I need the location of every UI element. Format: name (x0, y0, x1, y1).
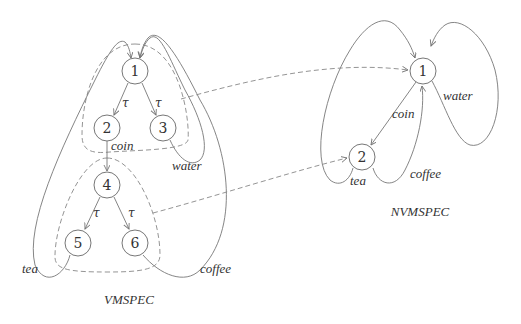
edge-6-1-coffee (140, 35, 226, 277)
n-label-coin: coin (392, 106, 414, 121)
edge-4-6 (114, 197, 129, 229)
edge-1-3 (142, 83, 156, 115)
nvmspec-title: NVMSPEC (390, 204, 450, 219)
svg-text:2: 2 (103, 120, 112, 136)
label-water: water (172, 158, 203, 173)
n-label-water: water (443, 88, 474, 103)
vmspec-node-5: 5 (65, 230, 91, 256)
svg-text:1: 1 (419, 63, 428, 79)
nvmspec-node-1: 1 (410, 58, 436, 84)
label-tau-4-5: τ (93, 206, 100, 220)
svg-text:4: 4 (103, 177, 112, 193)
svg-text:1: 1 (131, 63, 140, 79)
label-coffee: coffee (200, 261, 231, 276)
mapping-upper-to-1 (181, 67, 408, 99)
n-edge-1-1-water (431, 22, 498, 145)
n-label-coffee: coffee (410, 166, 441, 181)
svg-text:5: 5 (74, 235, 83, 251)
vmspec-node-6: 6 (122, 230, 148, 256)
vmspec-node-3: 3 (150, 115, 176, 141)
label-tea: tea (22, 261, 38, 276)
svg-text:6: 6 (131, 235, 140, 251)
vmspec-diagram: 1 2 3 4 5 6 τ τ coin water τ τ tea coffe… (22, 35, 231, 307)
n-label-tea: tea (350, 173, 366, 188)
nvmspec-node-2: 2 (349, 144, 375, 170)
label-tau-4-6: τ (128, 206, 135, 220)
label-tau-1-3: τ (155, 96, 162, 110)
svg-text:3: 3 (159, 120, 168, 136)
label-coin: coin (111, 138, 133, 153)
svg-text:2: 2 (358, 149, 367, 165)
state-diagram: 1 2 3 4 5 6 τ τ coin water τ τ tea coffe… (0, 0, 521, 324)
vmspec-node-4: 4 (94, 172, 120, 198)
nvmspec-diagram: 1 2 coin water tea coffee NVMSPEC (321, 21, 498, 219)
label-tau-1-2: τ (122, 96, 129, 110)
vmspec-title: VMSPEC (104, 292, 154, 307)
vmspec-node-1: 1 (122, 58, 148, 84)
